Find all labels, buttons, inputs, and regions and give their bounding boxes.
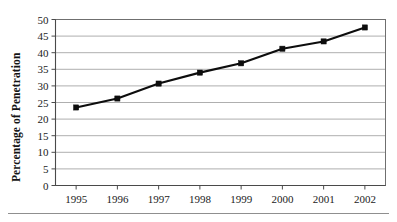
chart-figure: 05101520253035404550 1995199619971998199… bbox=[0, 0, 397, 222]
y-axis-title-text: Percentage of Penetration bbox=[10, 52, 23, 182]
x-tick-label-1996: 1996 bbox=[106, 193, 129, 205]
y-tick-label-35: 35 bbox=[38, 63, 50, 75]
data-point-1999 bbox=[239, 61, 244, 66]
data-point-2002 bbox=[362, 25, 367, 30]
y-axis-title: Percentage of Penetration bbox=[10, 52, 23, 182]
data-point-1998 bbox=[197, 70, 202, 75]
x-tick-label-1997: 1997 bbox=[148, 193, 171, 205]
y-tick-label-10: 10 bbox=[38, 146, 50, 158]
line-chart: 05101520253035404550 1995199619971998199… bbox=[0, 0, 397, 222]
x-tick-label-1995: 1995 bbox=[65, 193, 88, 205]
y-tick-label-5: 5 bbox=[43, 163, 49, 175]
data-point-2001 bbox=[321, 39, 326, 44]
y-tick-label-40: 40 bbox=[38, 47, 50, 59]
x-tick-label-2001: 2001 bbox=[313, 193, 335, 205]
y-tick-label-25: 25 bbox=[38, 97, 50, 109]
chart-background bbox=[0, 0, 397, 222]
x-tick-label-1999: 1999 bbox=[230, 193, 253, 205]
data-point-1996 bbox=[115, 96, 120, 101]
y-tick-label-15: 15 bbox=[38, 130, 50, 142]
data-point-1997 bbox=[156, 81, 161, 86]
x-tick-label-2000: 2000 bbox=[271, 193, 294, 205]
y-tick-label-45: 45 bbox=[38, 30, 50, 42]
y-tick-label-30: 30 bbox=[38, 80, 50, 92]
x-tick-label-1998: 1998 bbox=[189, 193, 212, 205]
x-tick-label-2002: 2002 bbox=[354, 193, 376, 205]
y-tick-label-20: 20 bbox=[38, 113, 50, 125]
data-point-2000 bbox=[280, 46, 285, 51]
y-tick-label-0: 0 bbox=[43, 180, 49, 192]
y-tick-label-50: 50 bbox=[38, 14, 50, 26]
data-point-1995 bbox=[74, 105, 79, 110]
